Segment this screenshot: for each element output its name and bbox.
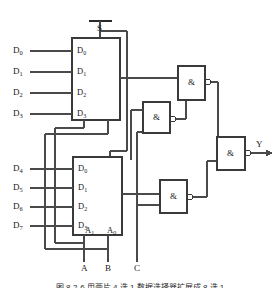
- muxbot-pin-a1: A1: [85, 226, 94, 235]
- input-label-d3: D3: [13, 109, 23, 118]
- input-label-d2: D2: [13, 88, 23, 97]
- muxbot-pin-d2: D2: [78, 202, 87, 211]
- input-label-d6: D6: [13, 202, 23, 211]
- input-label-d1: D1: [13, 67, 23, 76]
- muxtop-pin-d0: D0: [77, 46, 86, 55]
- output-label-y: Y: [256, 140, 263, 149]
- input-label-d0: D0: [13, 46, 23, 55]
- gate-upper-symbol: &: [188, 78, 195, 87]
- gate-output-symbol: &: [227, 149, 234, 158]
- figure-canvas: S D0 D1 D2 D3 D4 D5 D6 D7 D0 D1 D2 D3 D0…: [0, 0, 280, 288]
- input-label-d7: D7: [13, 221, 23, 230]
- select-label-a: A: [81, 264, 88, 273]
- select-label-c: C: [134, 264, 140, 273]
- select-label-b: B: [105, 264, 111, 273]
- input-label-d5: D5: [13, 183, 23, 192]
- strobe-label: S: [97, 24, 102, 33]
- gate-upper-bubble: [205, 79, 210, 84]
- muxbot-pin-a0: A0: [107, 226, 116, 235]
- muxbot-pin-d0: D0: [78, 164, 87, 173]
- output-arrow: [266, 150, 273, 157]
- gate-middle-symbol: &: [153, 113, 160, 122]
- gate-output-bubble: [245, 150, 250, 155]
- gate-lower-symbol: &: [170, 192, 177, 201]
- muxtop-pin-d2: D2: [77, 88, 86, 97]
- figure-caption: 图 8-2-6 用两片 4 选 1 数据选择器扩展成 8 选 1: [0, 281, 280, 288]
- circuit-schematic: [0, 0, 280, 288]
- muxbot-pin-d1: D1: [78, 183, 87, 192]
- gate-lower-bubble: [187, 194, 192, 199]
- muxtop-pin-d1: D1: [77, 67, 86, 76]
- gate-middle-bubble: [170, 116, 175, 121]
- muxtop-pin-d3: D3: [77, 109, 86, 118]
- input-label-d4: D4: [13, 164, 23, 173]
